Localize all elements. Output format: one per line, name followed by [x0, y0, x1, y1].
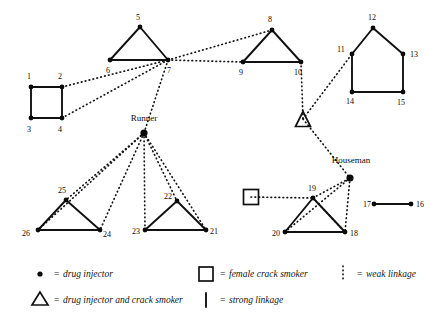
diagram-canvas: 1234567891011121314151617181920212223242… [0, 0, 437, 326]
node-dot-n25 [64, 198, 69, 203]
weak-linkage-edge [168, 60, 243, 62]
node-dot-n16 [409, 202, 414, 207]
node-label-n8: 8 [268, 15, 272, 24]
strong-linkage-layer [31, 27, 411, 232]
node-dot-n26 [36, 228, 41, 233]
node-dot-n24 [98, 228, 103, 233]
legend-equals-sign: = [54, 295, 59, 305]
strong-linkage-edge [272, 30, 301, 62]
node-label-n14: 14 [346, 97, 354, 106]
node-label-n11: 11 [337, 45, 345, 54]
node-label-n13: 13 [410, 50, 418, 59]
weak-linkage-edge [144, 133, 177, 201]
strong-linkage-edge [140, 27, 168, 60]
node-dot-runner [140, 129, 147, 136]
legend-female-crack: =female crack smoker [199, 267, 308, 281]
strong-linkage-edge [66, 200, 100, 230]
strong-linkage-edge [285, 198, 313, 232]
legend-drug-injector: =drug injector [37, 269, 113, 279]
node-dot-n14 [350, 90, 355, 95]
legend-injector-crack: =drug injector and crack smoker [32, 292, 183, 305]
node-dot-n20 [283, 230, 288, 235]
legend-equals-sign: = [220, 295, 225, 305]
legend-label: drug injector and crack smoker [63, 295, 183, 305]
weak-linkage-edge [285, 178, 350, 232]
legend-equals-sign: = [54, 269, 59, 279]
node-label-n10: 10 [294, 68, 302, 77]
node-label-n4: 4 [58, 125, 62, 134]
node-dot-n19 [311, 196, 316, 201]
node-dot-n5 [138, 25, 143, 30]
strong-linkage-edge [352, 28, 373, 54]
node-dot-n4 [60, 116, 65, 121]
node-label-n15: 15 [397, 98, 405, 107]
node-dot-n12 [371, 26, 376, 31]
network-diagram-figure: 1234567891011121314151617181920212223242… [0, 0, 437, 326]
node-dot-n23 [143, 228, 148, 233]
name-label-houseman: Houseman [332, 155, 371, 165]
strong-linkage-edge [145, 201, 177, 230]
legend-label: weak linkage [366, 269, 416, 279]
name-label-runner: Runner [131, 113, 158, 123]
weak-linkage-edge [38, 133, 144, 230]
weak-linkage-layer [38, 30, 352, 232]
node-dot-n13 [401, 52, 406, 57]
legend: =drug injector=drug injector and crack s… [32, 266, 416, 307]
node-label-n3: 3 [27, 125, 31, 134]
legend-label: female crack smoker [229, 269, 308, 279]
legend-label: strong linkage [229, 295, 283, 305]
node-label-n24: 24 [103, 230, 111, 239]
weak-linkage-edge [144, 133, 145, 230]
node-layer: 1234567891011121314151617181920212223242… [22, 13, 424, 239]
node-label-n19: 19 [308, 184, 316, 193]
triangle-icon [32, 292, 48, 305]
node-label-n12: 12 [368, 13, 376, 22]
node-label-n26: 26 [22, 229, 30, 238]
node-label-n5: 5 [136, 13, 140, 22]
node-label-n17: 17 [363, 200, 371, 209]
node-label-n16: 16 [416, 200, 424, 209]
node-label-n1: 1 [27, 72, 31, 81]
node-label-n9: 9 [239, 68, 243, 77]
node-dot-n1 [29, 85, 34, 90]
node-dot-houseman [346, 174, 353, 181]
legend-equals-sign: = [220, 269, 225, 279]
node-label-n20: 20 [272, 229, 280, 238]
node-label-n25: 25 [58, 186, 66, 195]
node-dot-n9 [241, 60, 246, 65]
node-dot-n18 [343, 230, 348, 235]
node-dot-n22 [175, 199, 180, 204]
weak-linkage-edge [62, 60, 168, 87]
weak-linkage-edge [168, 30, 272, 60]
node-label-n22: 22 [164, 192, 172, 201]
strong-linkage-edge [177, 201, 206, 230]
weak-linkage-edge [251, 197, 313, 198]
node-label-n23: 23 [132, 227, 140, 236]
node-dot-n2 [60, 85, 65, 90]
node-dot-n17 [372, 202, 377, 207]
node-dot-n8 [270, 28, 275, 33]
weak-linkage-edge [303, 119, 350, 178]
node-dot-n21 [204, 228, 209, 233]
strong-linkage-edge [313, 198, 345, 232]
strong-linkage-edge [373, 28, 403, 54]
strong-linkage-edge [110, 27, 140, 60]
legend-label: drug injector [63, 269, 113, 279]
node-label-n18: 18 [350, 229, 358, 238]
node-label-n21: 21 [210, 227, 218, 236]
node-dot-n15 [401, 90, 406, 95]
node-dot-n3 [29, 116, 34, 121]
dot-icon [37, 271, 42, 276]
weak-linkage-edge [100, 133, 144, 230]
node-label-n7: 7 [167, 66, 171, 75]
node-dot-n10 [299, 60, 304, 65]
legend-equals-sign: = [357, 269, 362, 279]
node-label-n6: 6 [106, 66, 110, 75]
weak-linkage-edge [66, 133, 144, 200]
name-label-layer: RunnerHouseman [131, 113, 371, 165]
weak-linkage-edge [303, 54, 352, 119]
node-dot-n7 [166, 58, 171, 63]
square-icon [199, 267, 213, 281]
weak-linkage-edge [313, 178, 350, 198]
weak-linkage-edge [144, 133, 206, 230]
